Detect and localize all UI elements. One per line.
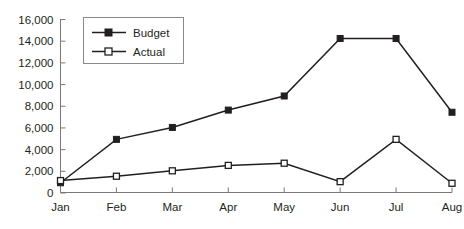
x-tick-label: Mar [162, 201, 182, 213]
data-point-filled-square [225, 107, 231, 113]
data-point-filled-square [169, 124, 175, 130]
y-tick-label: 10,000 [18, 79, 53, 91]
legend-label-budget: Budget [133, 27, 170, 39]
filled-square-icon [105, 29, 112, 36]
legend-label-actual: Actual [133, 46, 165, 58]
chart-background [0, 0, 464, 229]
data-point-filled-square [113, 136, 119, 142]
y-tick-label: 2,000 [25, 165, 54, 177]
y-tick-label: 0 [47, 187, 53, 199]
line-chart: 02,0004,0006,0008,00010,00012,00014,0001… [0, 0, 464, 229]
data-point-filled-square [449, 109, 455, 115]
y-tick-label: 6,000 [25, 122, 54, 134]
data-point-open-square [449, 180, 455, 186]
data-point-open-square [113, 173, 119, 179]
x-tick-label: Apr [219, 201, 237, 213]
y-tick-label: 8,000 [25, 100, 54, 112]
y-tick-label: 12,000 [18, 57, 53, 69]
x-tick-label: May [273, 201, 295, 213]
data-point-open-square [169, 168, 175, 174]
chart-canvas: 02,0004,0006,0008,00010,00012,00014,0001… [0, 0, 464, 229]
data-point-open-square [281, 160, 287, 166]
data-point-filled-square [337, 36, 343, 42]
x-tick-label: Jul [389, 201, 404, 213]
data-point-open-square [225, 162, 231, 168]
chart-legend: Budget Actual [84, 18, 184, 64]
x-tick-label: Jan [51, 201, 70, 213]
data-point-open-square [58, 178, 64, 184]
data-point-filled-square [393, 36, 399, 42]
y-tick-label: 16,000 [18, 14, 53, 26]
open-square-icon [105, 48, 112, 55]
data-point-open-square [393, 136, 399, 142]
data-point-filled-square [281, 93, 287, 99]
x-tick-label: Jun [331, 201, 350, 213]
x-tick-label: Feb [107, 201, 127, 213]
data-point-open-square [337, 179, 343, 185]
y-tick-label: 14,000 [18, 35, 53, 47]
y-tick-label: 4,000 [25, 144, 54, 156]
x-tick-label: Aug [442, 201, 462, 213]
